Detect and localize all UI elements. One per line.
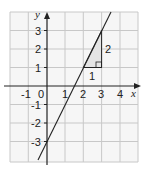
x-axis-label: x: [130, 87, 136, 99]
y-tick-label: -2: [31, 117, 41, 129]
graph: y x 0 3 2 1 -1 -2 -3 -1 1 2 3 4 1 2: [0, 0, 147, 169]
y-axis-label: y: [34, 8, 40, 20]
x-tick-label: 4: [117, 88, 123, 100]
run-label: 1: [89, 70, 95, 82]
x-tick-label: 3: [98, 88, 104, 100]
rise-label: 2: [105, 43, 111, 55]
x-tick-label: 2: [80, 88, 86, 100]
x-tick-label: 1: [62, 88, 68, 100]
y-tick-label: 3: [35, 25, 41, 37]
y-tick-label: 2: [35, 43, 41, 55]
y-tick-label: -1: [31, 99, 41, 111]
y-tick-label: 1: [35, 62, 41, 74]
y-tick-label: -3: [31, 136, 41, 148]
x-tick-label: -1: [21, 88, 31, 100]
